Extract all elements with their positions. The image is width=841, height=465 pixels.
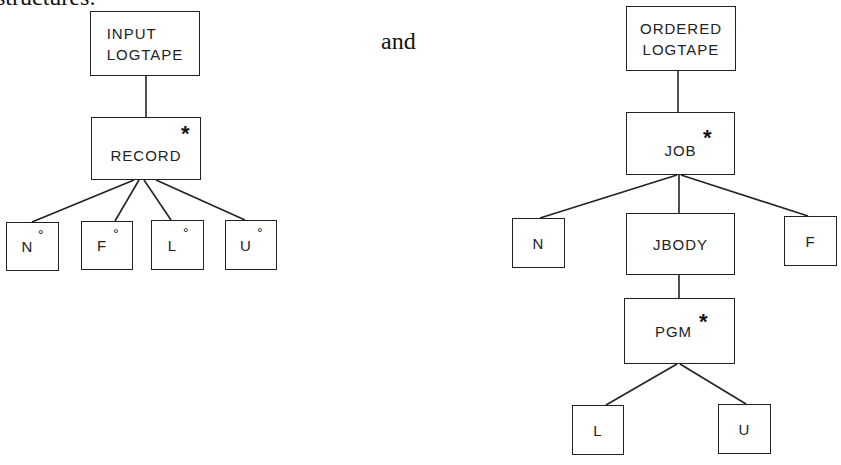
node-label: F xyxy=(805,231,815,252)
node-n: N xyxy=(512,218,565,268)
node-job: JOB xyxy=(626,112,735,175)
node-label: N xyxy=(533,233,545,254)
node-input-logtape: INPUT LOGTAPE xyxy=(90,11,200,76)
node-u-selection: U xyxy=(225,220,277,270)
selection-marker: ° xyxy=(257,225,263,241)
node-label: L xyxy=(593,420,602,441)
edge-record-u xyxy=(156,180,245,220)
node-n-selection: N xyxy=(6,222,59,271)
node-label: N xyxy=(22,236,34,257)
edge-pgm-u xyxy=(680,364,746,404)
node-ordered-logtape: ORDERED LOGTAPE xyxy=(626,6,736,71)
node-label: L xyxy=(168,235,177,256)
node-label: RECORD xyxy=(110,145,181,166)
node-label: INPUT LOGTAPE xyxy=(107,23,184,65)
edge-record-l xyxy=(144,180,171,220)
edge-pgm-l xyxy=(606,364,677,405)
selection-marker: ° xyxy=(183,225,189,241)
selection-marker: ° xyxy=(38,227,44,243)
node-jbody: JBODY xyxy=(626,213,735,275)
node-f: F xyxy=(784,216,837,266)
node-l: L xyxy=(572,405,624,455)
iteration-marker: * xyxy=(703,125,712,151)
node-label: JOB xyxy=(664,140,696,161)
node-label: U xyxy=(240,235,252,256)
selection-marker: ° xyxy=(113,226,119,242)
node-label: U xyxy=(739,419,751,440)
node-pgm: PGM xyxy=(624,298,735,364)
node-label: ORDERED LOGTAPE xyxy=(640,18,722,60)
node-label: PGM xyxy=(655,321,692,342)
node-u: U xyxy=(718,404,771,454)
iteration-marker: * xyxy=(699,309,708,335)
edge-job-f xyxy=(681,175,808,216)
node-f-selection: F xyxy=(81,221,133,270)
node-l-selection: L xyxy=(151,220,204,270)
edge-job-n xyxy=(540,175,677,218)
iteration-marker: * xyxy=(181,121,190,147)
node-label: F xyxy=(97,235,107,256)
node-label: JBODY xyxy=(653,234,708,255)
